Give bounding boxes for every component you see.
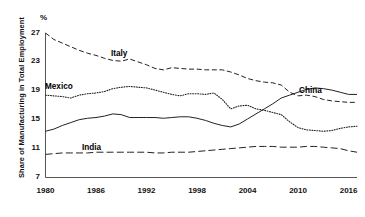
series-label-italy: Italy: [111, 49, 127, 58]
series-label-india: India: [82, 143, 101, 152]
plot-area: [0, 0, 365, 217]
series-label-china: China: [299, 86, 322, 95]
series-label-mexico: Mexico: [45, 82, 73, 91]
line-chart: Share of Manufacturing in Total Employme…: [0, 0, 365, 217]
